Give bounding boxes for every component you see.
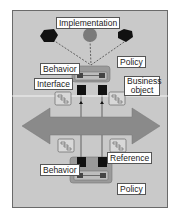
gray-circle-icon — [83, 28, 97, 42]
policy-label-top: Policy — [117, 56, 146, 68]
implementation-label: Implementation — [56, 17, 120, 29]
behavior-label-top: Behavior — [40, 63, 80, 75]
interface-port-top-left — [77, 85, 86, 95]
black-pentagon-icon — [118, 29, 133, 42]
black-hexagon-icon — [40, 29, 58, 42]
business-object-label: Business object — [124, 76, 160, 96]
reference-label: Reference — [107, 152, 152, 164]
interface-label: Interface — [34, 78, 73, 90]
component-icon-upper-left — [55, 92, 71, 105]
component-icon-upper-right — [109, 92, 125, 105]
interface-port-top-right — [98, 85, 107, 95]
behavior-label-bottom: Behavior — [40, 164, 80, 176]
business-object-line2: object — [131, 85, 154, 95]
reference-port-bottom-right — [98, 157, 107, 167]
diagram-canvas — [0, 0, 179, 217]
component-icon-lower-right — [110, 139, 126, 152]
bidirectional-arrow — [22, 108, 160, 144]
component-icon-lower-left — [58, 139, 74, 152]
policy-label-bottom: Policy — [117, 183, 146, 195]
implementation-connector-lines — [50, 38, 127, 65]
